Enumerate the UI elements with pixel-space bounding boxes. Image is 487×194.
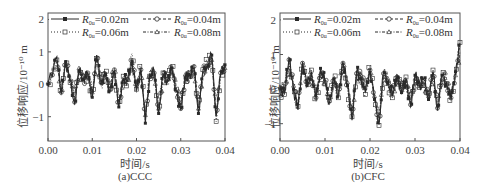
legend-label: R0u=0.06m: [313, 26, 361, 39]
x-tick-label: 0.04: [450, 144, 470, 156]
legend-label: R0u=0.06m: [81, 26, 129, 39]
legend: R0u=0.02mR0u=0.04mR0u=0.06mR0u=0.08m: [49, 13, 224, 40]
x-tick-label: 0.01: [83, 144, 102, 156]
caption-a: (a)CCC: [105, 170, 165, 182]
legend: R0u=0.02mR0u=0.04mR0u=0.06mR0u=0.08m: [281, 13, 459, 40]
y-tick-label: −1: [32, 111, 44, 123]
series-group: [278, 40, 462, 127]
legend-label: R0u=0.08m: [405, 26, 453, 39]
legend-label: R0u=0.08m: [173, 26, 221, 39]
legend-label: R0u=0.02m: [81, 13, 129, 26]
y-tick-label: 2: [271, 14, 277, 26]
x-axis-label-a: 时间/s: [110, 155, 160, 171]
x-tick-label: 0.04: [215, 144, 235, 156]
x-tick-label: 0.03: [405, 144, 425, 156]
series-group: [46, 53, 227, 125]
caption-b: (b)CFC: [338, 170, 398, 182]
x-tick-label: 0.03: [171, 144, 191, 156]
x-tick-label: 0.00: [38, 144, 58, 156]
y-axis-label-a: 位移响应/10⁻¹⁰ m: [14, 28, 30, 128]
legend-label: R0u=0.02m: [313, 13, 361, 26]
x-tick-label: 0.00: [270, 144, 290, 156]
legend-label: R0u=0.04m: [173, 13, 221, 26]
y-tick-label: 0: [39, 78, 45, 90]
y-tick-label: 2: [39, 13, 45, 25]
legend-label: R0u=0.04m: [405, 13, 453, 26]
y-axis-label-b: 位移响应/10⁻¹⁰ m: [266, 28, 282, 128]
y-tick-label: 1: [39, 46, 45, 58]
x-axis-label-b: 时间/s: [343, 155, 393, 171]
x-tick-label: 0.01: [315, 144, 334, 156]
chart-panel-b: 0.000.010.020.030.04210−1R0u=0.02mR0u=0.…: [243, 0, 486, 194]
chart-panel-a: 0.000.010.020.030.04210−1R0u=0.02mR0u=0.…: [0, 0, 243, 194]
